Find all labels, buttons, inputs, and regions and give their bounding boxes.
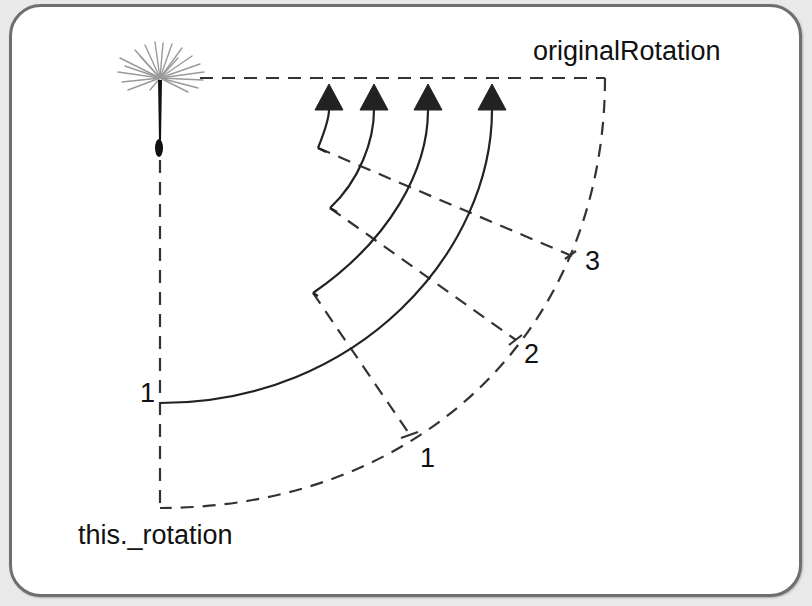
radial-line-3 [318, 148, 572, 256]
arrowhead-1 [315, 84, 343, 110]
step-2-outer-label: 2 [524, 341, 539, 368]
arrowhead-2 [360, 84, 388, 110]
this-rotation-label: this._rotation [78, 522, 233, 549]
dandelion-seed-icon [118, 42, 204, 157]
motion-arc-3 [330, 110, 374, 208]
step-3-outer-label: 3 [585, 248, 600, 275]
rotation-diagram [0, 0, 812, 606]
motion-arc-4 [318, 110, 329, 148]
outer-dashed-arc [160, 78, 605, 508]
arrowhead-3 [414, 84, 442, 110]
radial-line-2 [330, 208, 516, 340]
arrowhead-4 [478, 84, 506, 110]
original-rotation-label: originalRotation [533, 38, 721, 65]
step-1-start-label: 1 [140, 380, 155, 407]
motion-arc-1 [160, 110, 492, 403]
step-1-outer-label: 1 [420, 445, 435, 472]
